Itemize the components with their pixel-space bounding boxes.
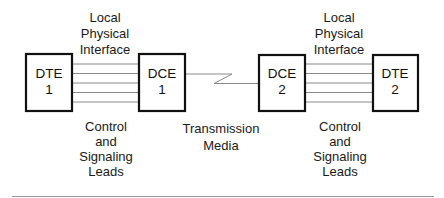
media-label: Transmission Media	[183, 120, 260, 154]
dce2-title: DCE	[268, 66, 297, 82]
label-line: and	[313, 134, 367, 149]
label-line: Interface	[80, 42, 131, 58]
label-line: Signaling	[313, 149, 367, 164]
diagram-graphics	[0, 0, 444, 198]
label-line: Leads	[79, 164, 133, 179]
label-line: Signaling	[79, 149, 133, 164]
dte2-number: 2	[382, 82, 409, 98]
dce1-title: DCE	[148, 66, 177, 82]
dce1-label: DCE 1	[148, 66, 177, 98]
leads-label-left: Control and Signaling Leads	[79, 119, 133, 179]
interface-label-left: Local Physical Interface	[80, 10, 131, 58]
label-line: and	[79, 134, 133, 149]
dte1-number: 1	[36, 82, 63, 98]
label-line: Local	[314, 10, 365, 26]
label-line: Transmission	[183, 120, 260, 137]
label-line: Physical	[80, 26, 131, 42]
transmission-media-line	[185, 74, 259, 84]
interface-label-right: Local Physical Interface	[314, 10, 365, 58]
leads-label-right: Control and Signaling Leads	[313, 119, 367, 179]
label-line: Control	[79, 119, 133, 134]
interface-leads-left	[73, 64, 138, 102]
dce2-number: 2	[268, 82, 297, 98]
dte2-label: DTE 2	[382, 66, 409, 98]
label-line: Control	[313, 119, 367, 134]
interface-leads-right	[305, 64, 372, 102]
diagram-canvas: DTE 1 DCE 1 DCE 2 DTE 2 Local Physical I…	[0, 0, 444, 198]
dce2-label: DCE 2	[268, 66, 297, 98]
label-line: Leads	[313, 164, 367, 179]
label-line: Physical	[314, 26, 365, 42]
dce1-number: 1	[148, 82, 177, 98]
dte2-title: DTE	[382, 66, 409, 82]
dte1-title: DTE	[36, 66, 63, 82]
label-line: Interface	[314, 42, 365, 58]
label-line: Media	[183, 137, 260, 154]
dte1-label: DTE 1	[36, 66, 63, 98]
label-line: Local	[80, 10, 131, 26]
